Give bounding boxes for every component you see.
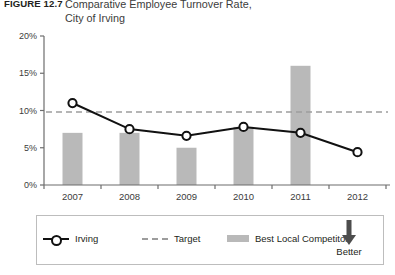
bar-2009 <box>177 148 197 185</box>
down-arrow-icon <box>341 220 357 246</box>
bar-2007 <box>63 133 83 185</box>
data-point-2012 <box>353 148 361 156</box>
y-tick-label-15%: 15% <box>19 68 37 78</box>
legend-items-container: Irving Target Best Local Competitor Bett… <box>37 216 383 264</box>
x-tick-label-2011: 2011 <box>290 191 310 202</box>
chart-plot-area: 0%5%10%15%20%200720082009201020112012 <box>0 30 395 205</box>
data-point-2009 <box>182 132 190 140</box>
chart-legend: Irving Target Best Local Competitor Bett… <box>36 215 384 265</box>
y-tick-label-20%: 20% <box>19 31 37 41</box>
better-indicator: Better <box>327 220 371 257</box>
figure-number-label: FIGURE 12.7 <box>4 0 63 9</box>
bar-swatch-icon <box>227 235 249 242</box>
figure-title-block: FIGURE 12.7 Comparative Employee Turnove… <box>4 0 392 32</box>
figure-container: FIGURE 12.7 Comparative Employee Turnove… <box>0 0 395 275</box>
y-tick-label-10%: 10% <box>19 106 37 116</box>
x-tick-label-2008: 2008 <box>119 191 140 202</box>
y-tick-label-5%: 5% <box>24 143 37 153</box>
dashed-line-icon <box>142 238 168 240</box>
bar-2008 <box>120 133 140 185</box>
legend-label-target: Target <box>174 233 200 244</box>
irving-line <box>73 103 358 152</box>
better-label: Better <box>327 246 371 257</box>
x-tick-label-2007: 2007 <box>62 191 83 202</box>
legend-item-target: Target <box>142 233 200 244</box>
y-tick-label-0%: 0% <box>24 180 37 190</box>
bar-2010 <box>234 127 254 185</box>
x-tick-label-2010: 2010 <box>233 191 254 202</box>
legend-label-irving: Irving <box>75 233 98 244</box>
bar-2011 <box>291 66 311 185</box>
legend-item-irving: Irving <box>43 233 98 244</box>
figure-title: Comparative Employee Turnover Rate, City… <box>65 0 385 25</box>
chart-svg: 0%5%10%15%20%200720082009201020112012 <box>0 30 395 205</box>
data-point-2008 <box>125 125 133 133</box>
data-point-2011 <box>296 129 304 137</box>
data-point-2007 <box>68 99 76 107</box>
data-point-2010 <box>239 123 247 131</box>
x-tick-label-2012: 2012 <box>347 191 368 202</box>
line-marker-icon <box>43 234 69 244</box>
x-tick-label-2009: 2009 <box>176 191 197 202</box>
